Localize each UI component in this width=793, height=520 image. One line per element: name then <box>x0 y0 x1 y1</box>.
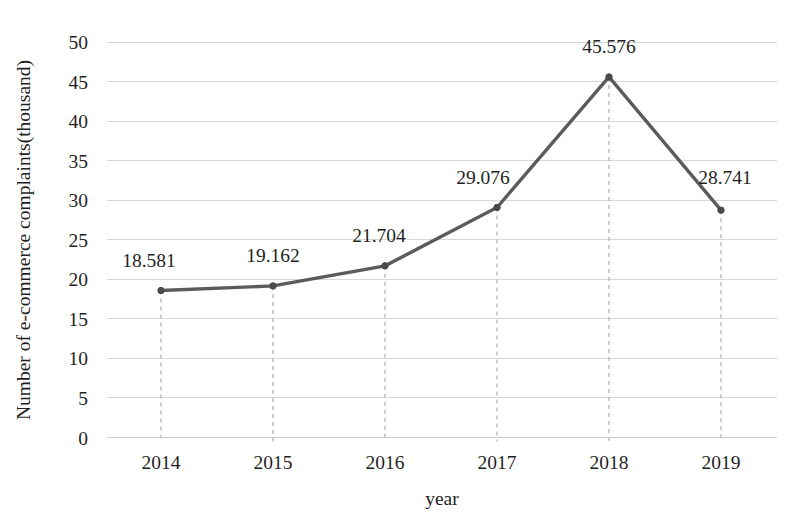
y-tick-label: 15 <box>69 309 89 330</box>
data-point-marker <box>606 74 612 80</box>
y-tick-label: 10 <box>69 348 89 369</box>
data-point-label: 28.741 <box>698 167 752 188</box>
x-tick-label: 2018 <box>590 452 629 473</box>
data-point-marker <box>382 263 388 269</box>
data-point-label: 29.076 <box>456 167 510 188</box>
data-point-marker <box>270 283 276 289</box>
x-tick-label: 2014 <box>142 452 181 473</box>
y-tick-label: 35 <box>69 151 89 172</box>
data-point-label: 19.162 <box>246 245 300 266</box>
data-point-marker <box>494 204 500 210</box>
y-tick-label: 50 <box>69 32 89 53</box>
data-point-label: 21.704 <box>352 225 406 246</box>
x-tick-label: 2017 <box>478 452 517 473</box>
y-tick-label: 20 <box>69 269 89 290</box>
y-tick-label: 5 <box>78 388 88 409</box>
y-tick-label: 40 <box>69 111 89 132</box>
y-axis-title: Number of e-commerce complaints(thousand… <box>13 60 35 420</box>
x-tick-label: 2015 <box>254 452 293 473</box>
data-point-marker <box>158 287 164 293</box>
data-point-label: 45.576 <box>582 36 636 57</box>
x-tick-label: 2019 <box>702 452 741 473</box>
chart-figure: 05101520253035404550 2014201520162017201… <box>0 0 793 520</box>
y-tick-label: 45 <box>69 72 89 93</box>
y-tick-label: 30 <box>69 190 89 211</box>
y-tick-label: 0 <box>78 428 88 449</box>
x-axis-title: year <box>425 488 459 509</box>
x-tick-label: 2016 <box>366 452 405 473</box>
y-tick-label: 25 <box>69 230 89 251</box>
data-point-label: 18.581 <box>122 250 176 271</box>
data-point-marker <box>718 207 724 213</box>
line-chart: 05101520253035404550 2014201520162017201… <box>0 0 793 520</box>
